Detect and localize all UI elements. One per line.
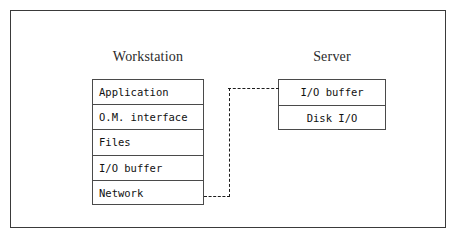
diagram-canvas: Workstation Server Application O.M. inte… bbox=[0, 0, 459, 244]
layer-label: O.M. interface bbox=[99, 111, 188, 123]
network-link-segment-to-server bbox=[228, 88, 279, 89]
workstation-stack: Application O.M. interface Files I/O buf… bbox=[92, 79, 204, 205]
workstation-layer-io-buffer: I/O buffer bbox=[93, 156, 203, 181]
layer-label: Disk I/O bbox=[307, 112, 358, 124]
layer-label: Application bbox=[99, 86, 169, 98]
workstation-column-title: Workstation bbox=[92, 49, 204, 65]
server-column-title: Server bbox=[278, 49, 386, 65]
layer-label: I/O buffer bbox=[99, 162, 162, 174]
network-link-segment-from-network bbox=[204, 196, 230, 197]
layer-label: Files bbox=[99, 136, 131, 148]
workstation-layer-application: Application bbox=[93, 80, 203, 105]
network-link-segment-vertical bbox=[229, 88, 230, 197]
workstation-layer-files: Files bbox=[93, 130, 203, 155]
layer-label: Network bbox=[99, 187, 143, 199]
layer-label: I/O buffer bbox=[300, 86, 363, 98]
server-layer-disk-io: Disk I/O bbox=[279, 106, 385, 132]
server-layer-io-buffer: I/O buffer bbox=[279, 80, 385, 106]
workstation-layer-om-interface: O.M. interface bbox=[93, 105, 203, 130]
workstation-layer-network: Network bbox=[93, 181, 203, 206]
figure-frame: Workstation Server Application O.M. inte… bbox=[10, 10, 446, 228]
server-stack: I/O buffer Disk I/O bbox=[278, 79, 386, 130]
